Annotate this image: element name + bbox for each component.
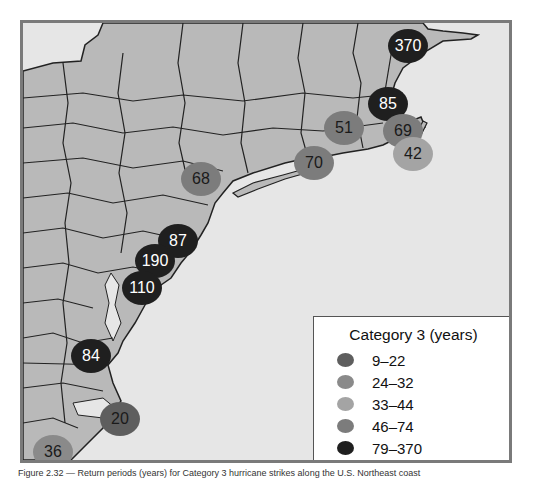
legend-label: 46–74: [372, 418, 414, 435]
map-marker: 68: [181, 162, 221, 196]
map-marker: 70: [294, 146, 334, 180]
legend-title: Category 3 (years): [314, 326, 512, 344]
legend-label: 9–22: [372, 352, 405, 369]
map-marker: 370: [388, 29, 428, 63]
legend-swatch-icon: [337, 419, 354, 433]
legend-item: 33–44: [337, 395, 414, 413]
legend-label: 79–370: [372, 440, 422, 457]
figure-caption: Figure 2.32 — Return periods (years) for…: [18, 468, 518, 478]
map-marker: 84: [71, 339, 111, 373]
map-marker: 36: [33, 435, 73, 463]
map-marker: 51: [324, 111, 364, 145]
legend-swatch-icon: [337, 375, 354, 389]
legend: Category 3 (years) 9–22 24–32 33–44 46–7…: [313, 316, 512, 461]
legend-label: 33–44: [372, 396, 414, 413]
map-marker: 42: [393, 137, 433, 171]
map-marker: 110: [122, 271, 162, 305]
legend-swatch-icon: [337, 397, 354, 411]
legend-item: 24–32: [337, 373, 414, 391]
legend-item: 9–22: [337, 351, 405, 369]
legend-item: 46–74: [337, 417, 414, 435]
legend-swatch-icon: [337, 441, 354, 455]
legend-item: 79–370: [337, 439, 422, 457]
map-marker: 20: [100, 402, 140, 436]
legend-label: 24–32: [372, 374, 414, 391]
legend-swatch-icon: [337, 353, 354, 367]
map-frame: 37085516942706887190110842036 Category 3…: [20, 20, 512, 463]
